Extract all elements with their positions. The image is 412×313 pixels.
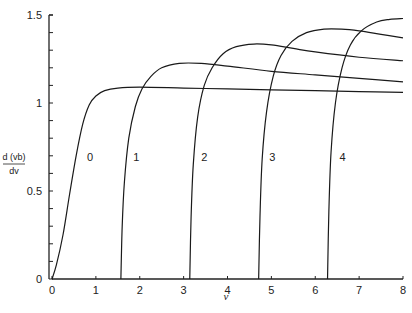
curves xyxy=(52,19,403,279)
x-tick-label: 3 xyxy=(181,284,187,296)
y-axis-label-denominator: dv xyxy=(9,166,19,176)
x-tick-label: 5 xyxy=(268,284,274,296)
chart: 01234567800.511.5 01234 v d (vb) dv xyxy=(0,0,412,313)
x-tick-label: 6 xyxy=(312,284,318,296)
x-tick-label: 1 xyxy=(93,284,99,296)
x-tick-label: 7 xyxy=(356,284,362,296)
y-tick-label: 0 xyxy=(36,273,42,285)
curve-label-4: 4 xyxy=(339,151,345,163)
axes: 01234567800.511.5 xyxy=(27,9,406,296)
curve-label-2: 2 xyxy=(201,151,207,163)
y-axis-label-numerator: d (vb) xyxy=(2,152,25,162)
y-tick-label: 1.5 xyxy=(27,9,42,21)
curve-label-3: 3 xyxy=(269,151,275,163)
x-tick-label: 8 xyxy=(400,284,406,296)
x-tick-label: 0 xyxy=(49,284,55,296)
y-axis-label: d (vb) dv xyxy=(2,152,25,176)
x-axis-label: v xyxy=(224,290,229,302)
curve-label-0: 0 xyxy=(87,151,93,163)
y-tick-label: 0.5 xyxy=(27,185,42,197)
x-tick-label: 2 xyxy=(137,284,143,296)
y-tick-label: 1 xyxy=(36,97,42,109)
curve-label-1: 1 xyxy=(133,151,139,163)
curve-0 xyxy=(52,87,403,279)
